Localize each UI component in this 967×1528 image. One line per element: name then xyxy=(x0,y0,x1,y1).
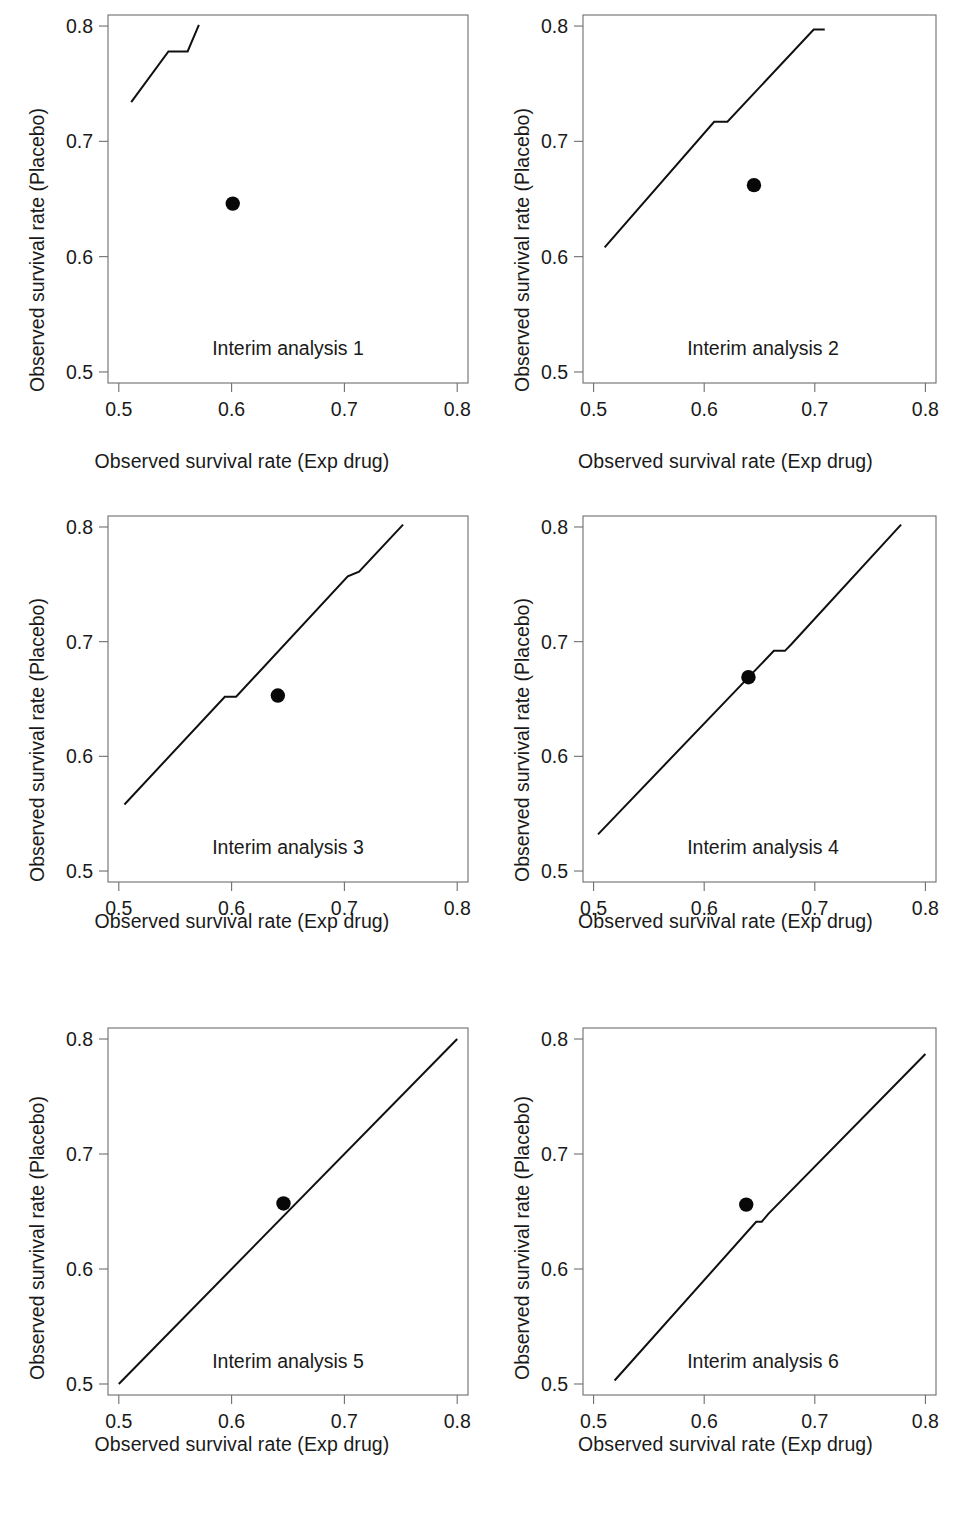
svg-text:0.5: 0.5 xyxy=(105,398,132,420)
panel-caption: Interim analysis 6 xyxy=(687,1350,839,1372)
panel-4-plot: 0.50.60.70.80.50.60.70.8Interim analysis… xyxy=(484,490,967,950)
stopping-boundary-line xyxy=(605,30,825,248)
panel-5-x-axis-title: Observed survival rate (Exp drug) xyxy=(0,1433,484,1456)
svg-text:0.7: 0.7 xyxy=(801,398,828,420)
stopping-boundary-line xyxy=(124,525,403,805)
panel-interim-analysis-2: 0.50.60.70.80.50.60.70.8Interim analysis… xyxy=(484,0,967,490)
svg-text:0.8: 0.8 xyxy=(444,398,471,420)
panel-caption: Interim analysis 2 xyxy=(687,337,839,359)
panel-grid: 0.50.60.70.80.50.60.70.8Interim analysis… xyxy=(0,0,967,1528)
svg-text:0.6: 0.6 xyxy=(541,1258,568,1280)
svg-text:0.7: 0.7 xyxy=(66,1143,93,1165)
svg-text:0.8: 0.8 xyxy=(66,15,93,37)
observed-point-marker xyxy=(739,1197,753,1211)
svg-text:0.7: 0.7 xyxy=(66,130,93,152)
stopping-boundary-line xyxy=(119,1039,457,1384)
panel-caption: Interim analysis 1 xyxy=(212,337,364,359)
panel-interim-analysis-6: 0.50.60.70.80.50.60.70.8Interim analysis… xyxy=(484,950,967,1528)
svg-text:0.5: 0.5 xyxy=(541,860,568,882)
svg-text:0.8: 0.8 xyxy=(444,1410,471,1432)
panel-6-y-axis-title: Observed survival rate (Placebo) xyxy=(511,1096,534,1380)
panel-3-x-axis-title: Observed survival rate (Exp drug) xyxy=(0,910,484,933)
svg-text:0.6: 0.6 xyxy=(66,246,93,268)
panel-interim-analysis-4: 0.50.60.70.80.50.60.70.8Interim analysis… xyxy=(484,490,967,950)
panel-4-x-axis-title: Observed survival rate (Exp drug) xyxy=(484,910,967,933)
svg-text:0.5: 0.5 xyxy=(580,1410,607,1432)
svg-text:0.8: 0.8 xyxy=(541,15,568,37)
panel-1-plot: 0.50.60.70.80.50.60.70.8Interim analysis… xyxy=(0,0,484,490)
panel-3-plot: 0.50.60.70.80.50.60.70.8Interim analysis… xyxy=(0,490,484,950)
panel-2-x-axis-title: Observed survival rate (Exp drug) xyxy=(484,450,967,473)
svg-text:0.6: 0.6 xyxy=(541,745,568,767)
panel-caption: Interim analysis 5 xyxy=(212,1350,364,1372)
observed-point-marker xyxy=(271,688,285,702)
stopping-boundary-line xyxy=(615,1054,926,1381)
panel-2-plot: 0.50.60.70.80.50.60.70.8Interim analysis… xyxy=(484,0,967,490)
panel-6-x-axis-title: Observed survival rate (Exp drug) xyxy=(484,1433,967,1456)
panel-caption: Interim analysis 4 xyxy=(687,836,839,858)
panel-4-y-axis-title: Observed survival rate (Placebo) xyxy=(511,598,534,882)
svg-text:0.5: 0.5 xyxy=(541,1373,568,1395)
svg-text:0.6: 0.6 xyxy=(691,398,718,420)
panel-2-y-axis-title: Observed survival rate (Placebo) xyxy=(511,108,534,392)
svg-text:0.5: 0.5 xyxy=(66,1373,93,1395)
panel-1-x-axis-title: Observed survival rate (Exp drug) xyxy=(0,450,484,473)
panel-interim-analysis-1: 0.50.60.70.80.50.60.70.8Interim analysis… xyxy=(0,0,484,490)
panel-interim-analysis-5: 0.50.60.70.80.50.60.70.8Interim analysis… xyxy=(0,950,484,1528)
svg-text:0.5: 0.5 xyxy=(66,361,93,383)
svg-text:0.6: 0.6 xyxy=(691,1410,718,1432)
svg-text:0.5: 0.5 xyxy=(105,1410,132,1432)
observed-point-marker xyxy=(276,1196,290,1210)
svg-text:0.6: 0.6 xyxy=(66,1258,93,1280)
svg-text:0.7: 0.7 xyxy=(541,130,568,152)
svg-text:0.7: 0.7 xyxy=(801,1410,828,1432)
svg-text:0.6: 0.6 xyxy=(66,745,93,767)
svg-text:0.5: 0.5 xyxy=(66,860,93,882)
svg-text:0.7: 0.7 xyxy=(331,398,358,420)
svg-text:0.6: 0.6 xyxy=(218,1410,245,1432)
observed-point-marker xyxy=(741,670,755,684)
svg-text:0.6: 0.6 xyxy=(541,246,568,268)
panel-5-y-axis-title: Observed survival rate (Placebo) xyxy=(26,1096,49,1380)
panel-interim-analysis-3: 0.50.60.70.80.50.60.70.8Interim analysis… xyxy=(0,490,484,950)
svg-text:0.8: 0.8 xyxy=(66,1028,93,1050)
svg-text:0.7: 0.7 xyxy=(541,1143,568,1165)
svg-text:0.5: 0.5 xyxy=(541,361,568,383)
svg-text:0.7: 0.7 xyxy=(66,631,93,653)
svg-text:0.8: 0.8 xyxy=(66,516,93,538)
svg-text:0.8: 0.8 xyxy=(912,398,939,420)
svg-text:0.5: 0.5 xyxy=(580,398,607,420)
svg-text:0.7: 0.7 xyxy=(331,1410,358,1432)
stopping-boundary-line xyxy=(131,25,199,102)
svg-text:0.7: 0.7 xyxy=(541,631,568,653)
observed-point-marker xyxy=(226,196,240,210)
svg-text:0.6: 0.6 xyxy=(218,398,245,420)
panel-3-y-axis-title: Observed survival rate (Placebo) xyxy=(26,598,49,882)
svg-text:0.8: 0.8 xyxy=(541,1028,568,1050)
svg-text:0.8: 0.8 xyxy=(912,1410,939,1432)
svg-text:0.8: 0.8 xyxy=(541,516,568,538)
panel-1-y-axis-title: Observed survival rate (Placebo) xyxy=(26,108,49,392)
panel-caption: Interim analysis 3 xyxy=(212,836,364,858)
observed-point-marker xyxy=(747,178,761,192)
